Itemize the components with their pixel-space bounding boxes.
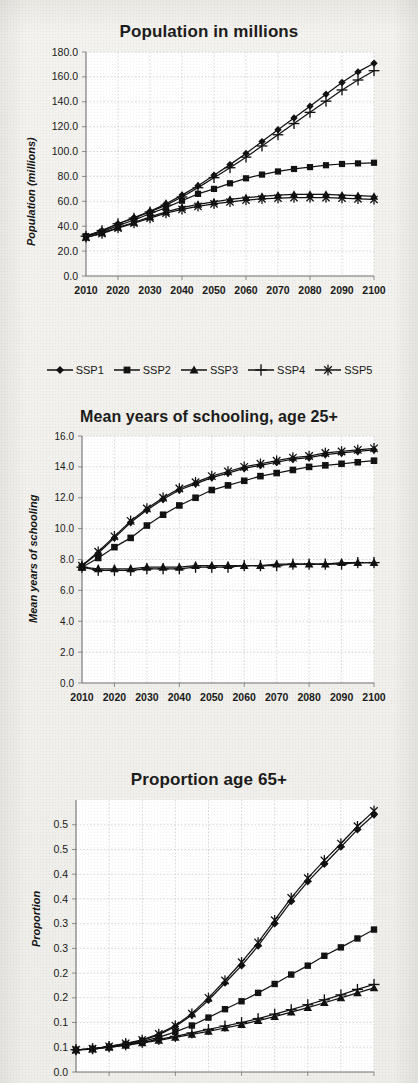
x-axis-tick-label: 2100 bbox=[362, 284, 386, 296]
x-axis-tick-label: 2090 bbox=[330, 691, 354, 703]
y-axis-tick-label: 6.0 bbox=[60, 585, 74, 596]
chart-title-population: Population in millions bbox=[0, 22, 418, 42]
y-axis-tick-label: 140.0 bbox=[52, 95, 78, 107]
y-axis-tick-label: 0.0 bbox=[53, 1066, 68, 1078]
y-axis-tick-label: 0.4 bbox=[53, 868, 68, 880]
y-axis-tick-label: 0.2 bbox=[53, 967, 68, 979]
x-axis-tick-label: 2060 bbox=[234, 284, 258, 296]
x-axis-tick-label: 2020 bbox=[103, 691, 127, 703]
plot-area-population: 0.020.040.060.080.0100.0120.0140.0160.01… bbox=[0, 44, 418, 316]
x-axis-tick-label: 2070 bbox=[266, 284, 290, 296]
x-axis-tick-label: 2080 bbox=[298, 284, 322, 296]
plot-area-proportion65: 0.00.10.10.20.20.30.30.40.40.50.5 bbox=[0, 792, 418, 1082]
legend-item-ssp5[interactable]: SSP5 bbox=[314, 363, 372, 377]
y-axis-tick-label: 16.0 bbox=[55, 431, 75, 442]
y-axis-tick-label: 0.4 bbox=[53, 893, 68, 905]
chart-svg-proportion65: 0.00.10.10.20.20.30.30.40.40.50.5 bbox=[0, 792, 418, 1082]
asterisk-marker bbox=[314, 363, 342, 377]
legend-label: SSP1 bbox=[76, 364, 104, 376]
y-axis-tick-label: 2.0 bbox=[60, 647, 74, 658]
legend-label: SSP4 bbox=[277, 364, 305, 376]
y-axis-tick-label: 160.0 bbox=[52, 70, 78, 82]
x-axis-tick-label: 2070 bbox=[265, 691, 289, 703]
x-axis-tick-label: 2090 bbox=[330, 284, 354, 296]
x-axis-tick-label: 2010 bbox=[70, 691, 94, 703]
y-axis-tick-label: 0.1 bbox=[53, 1041, 68, 1053]
y-axis-tick-label: 100.0 bbox=[52, 145, 78, 157]
chart-title-proportion65: Proportion age 65+ bbox=[0, 770, 418, 790]
triangle-marker bbox=[180, 363, 208, 377]
y-axis-tick-label: 120.0 bbox=[52, 120, 78, 132]
x-axis-tick-label: 2050 bbox=[200, 691, 224, 703]
chart-panel-proportion65: Proportion age 65+ 0.00.10.10.20.20.30.3… bbox=[0, 752, 418, 1083]
y-axis-tick-label: 0.1 bbox=[53, 1016, 68, 1028]
y-axis-tick-label: 14.0 bbox=[55, 461, 75, 472]
plot-area-schooling: 0.02.04.06.08.010.012.014.016.0201020202… bbox=[0, 428, 418, 723]
legend-item-ssp3[interactable]: SSP3 bbox=[180, 363, 238, 377]
legend-label: SSP2 bbox=[143, 364, 171, 376]
y-axis-tick-label: 12.0 bbox=[55, 492, 75, 503]
y-axis-tick-label: 0.0 bbox=[63, 270, 78, 282]
y-axis-tick-label: 4.0 bbox=[60, 616, 74, 627]
y-axis-tick-label: 8.0 bbox=[60, 554, 74, 565]
chart-legend: SSP1SSP2SSP3SSP4SSP5 bbox=[0, 360, 418, 380]
y-axis-tick-label: 0.5 bbox=[53, 843, 68, 855]
x-axis-tick-label: 2030 bbox=[135, 691, 159, 703]
chart-panel-schooling: Mean years of schooling, age 25+ 0.02.04… bbox=[0, 398, 418, 743]
y-axis-tick-label: 20.0 bbox=[58, 245, 79, 257]
x-axis-tick-label: 2100 bbox=[362, 691, 386, 703]
y-axis-tick-label: 0.2 bbox=[53, 991, 68, 1003]
legend-item-ssp4[interactable]: SSP4 bbox=[247, 363, 305, 377]
y-axis-title-proportion65: Proportion bbox=[30, 891, 42, 947]
x-axis-tick-label: 2020 bbox=[106, 284, 130, 296]
y-axis-title-population: Population (millions) bbox=[25, 137, 37, 246]
x-axis-tick-label: 2010 bbox=[74, 284, 98, 296]
legend-item-ssp2[interactable]: SSP2 bbox=[113, 363, 171, 377]
plus-marker bbox=[247, 363, 275, 377]
square-marker bbox=[113, 363, 141, 377]
chart-svg-schooling: 0.02.04.06.08.010.012.014.016.0201020202… bbox=[0, 428, 418, 723]
x-axis-tick-label: 2080 bbox=[297, 691, 321, 703]
x-axis-tick-label: 2060 bbox=[233, 691, 257, 703]
diamond-marker bbox=[46, 363, 74, 377]
x-axis-tick-label: 2030 bbox=[138, 284, 162, 296]
y-axis-tick-label: 10.0 bbox=[55, 523, 75, 534]
y-axis-tick-label: 40.0 bbox=[58, 220, 79, 232]
y-axis-tick-label: 180.0 bbox=[52, 46, 78, 58]
y-axis-tick-label: 0.3 bbox=[53, 917, 68, 929]
legend-label: SSP5 bbox=[344, 364, 372, 376]
x-axis-tick-label: 2040 bbox=[168, 691, 192, 703]
y-axis-tick-label: 0.5 bbox=[53, 818, 68, 830]
chart-panel-population: Population in millions 0.020.040.060.080… bbox=[0, 6, 418, 386]
y-axis-tick-label: 0.3 bbox=[53, 942, 68, 954]
y-axis-tick-label: 60.0 bbox=[58, 195, 79, 207]
y-axis-tick-label: 80.0 bbox=[58, 170, 79, 182]
chart-title-schooling: Mean years of schooling, age 25+ bbox=[0, 408, 418, 426]
legend-label: SSP3 bbox=[210, 364, 238, 376]
x-axis-tick-label: 2040 bbox=[170, 284, 194, 296]
y-axis-title-schooling: Mean years of schooling bbox=[27, 495, 39, 623]
legend-item-ssp1[interactable]: SSP1 bbox=[46, 363, 104, 377]
y-axis-tick-label: 0.0 bbox=[60, 678, 74, 689]
chart-svg-population: 0.020.040.060.080.0100.0120.0140.0160.01… bbox=[0, 44, 418, 316]
x-axis-tick-label: 2050 bbox=[202, 284, 226, 296]
